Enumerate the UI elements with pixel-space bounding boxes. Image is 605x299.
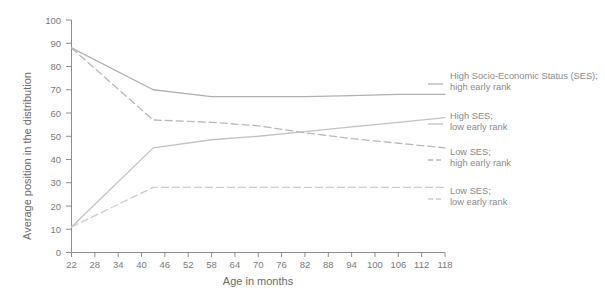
y-tick-label: 100 — [45, 15, 61, 26]
x-tick-label: 112 — [414, 259, 429, 270]
x-axis-title: Age in months — [223, 275, 294, 287]
series-line-0 — [72, 48, 446, 97]
y-axis-ticks: 0102030405060708090100 — [45, 15, 71, 259]
x-tick-label: 106 — [390, 259, 406, 270]
series-line-3 — [72, 187, 446, 227]
y-axis-title: Average position in the distribution — [21, 72, 33, 240]
x-tick-label: 52 — [183, 259, 194, 270]
x-tick-label: 94 — [346, 259, 357, 270]
x-tick-label: 88 — [323, 259, 334, 270]
legend-label-0-line2: high early rank — [450, 82, 511, 92]
y-tick-label: 90 — [50, 38, 61, 49]
y-tick-label: 0 — [56, 247, 61, 258]
y-tick-label: 70 — [50, 84, 61, 95]
chart-container: Average position in the distribution 010… — [0, 0, 605, 299]
y-tick-label: 50 — [50, 131, 61, 142]
y-tick-label: 40 — [50, 154, 61, 165]
series-group — [72, 48, 446, 227]
legend-label-2-line2: high early rank — [450, 158, 511, 168]
legend-label-3-line2: low early rank — [450, 197, 508, 207]
legend-label-0-line1: High Socio-Economic Status (SES); — [450, 71, 598, 81]
legend-label-2-line1: Low SES; — [450, 147, 491, 157]
legend-label-1-line2: low early rank — [450, 122, 508, 132]
series-line-2 — [72, 48, 446, 148]
x-tick-label: 82 — [300, 259, 311, 270]
x-tick-label: 64 — [230, 259, 241, 270]
x-tick-label: 46 — [160, 259, 171, 270]
x-axis-ticks: 22283440465258647076828894100106112118 — [66, 253, 452, 271]
line-chart: Average position in the distribution 010… — [0, 0, 605, 299]
y-tick-label: 10 — [50, 224, 61, 235]
x-tick-label: 34 — [113, 259, 124, 270]
chart-legend: High Socio-Economic Status (SES);high ea… — [428, 71, 598, 207]
legend-label-3-line1: Low SES; — [450, 186, 491, 196]
x-tick-label: 58 — [206, 259, 217, 270]
y-tick-label: 80 — [50, 61, 61, 72]
x-tick-label: 40 — [136, 259, 147, 270]
y-tick-label: 60 — [50, 108, 61, 119]
x-tick-label: 76 — [276, 259, 287, 270]
legend-label-1-line1: High SES; — [450, 111, 493, 121]
series-line-1 — [72, 118, 446, 227]
x-tick-label: 22 — [66, 259, 77, 270]
x-tick-label: 70 — [253, 259, 264, 270]
y-tick-label: 30 — [50, 177, 61, 188]
x-tick-label: 118 — [437, 259, 452, 270]
x-tick-label: 100 — [367, 259, 383, 270]
x-tick-label: 28 — [90, 259, 101, 270]
y-tick-label: 20 — [50, 201, 61, 212]
